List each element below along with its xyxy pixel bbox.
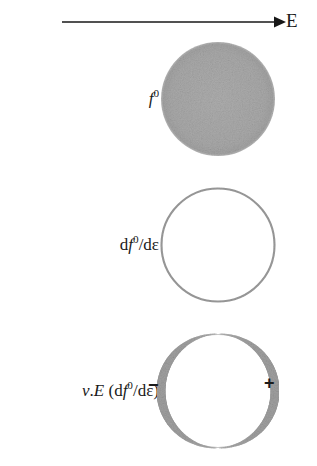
fermi-ring-dfde [157, 182, 279, 308]
row-f0: f0 [0, 36, 317, 162]
plus-sign: + [264, 374, 275, 392]
row-dfde: df0/dε [0, 182, 317, 308]
row-label-dfde: df0/dε [120, 236, 159, 255]
row-vedfde: v.E (df0/dε) [0, 328, 317, 454]
figure-canvas: E f0 [0, 0, 317, 466]
fermi-disk-f0 [157, 36, 279, 162]
minus-sign: − [148, 376, 159, 394]
field-arrow-label: E [286, 11, 298, 30]
fermi-ring-vedfde [157, 328, 279, 454]
